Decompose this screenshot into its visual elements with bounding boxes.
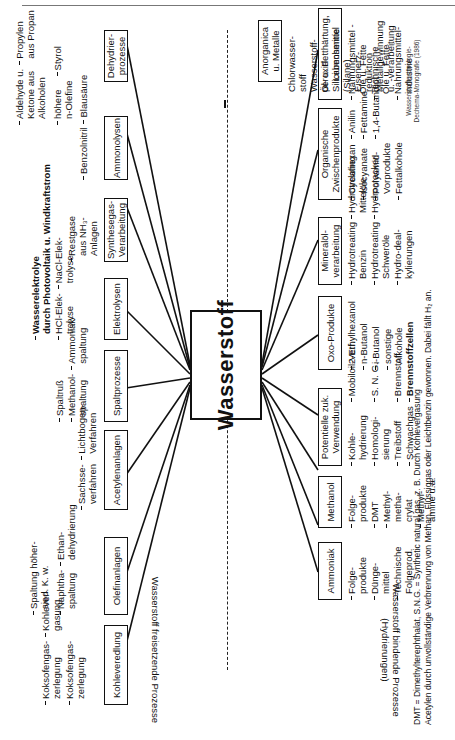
list-dehydrierprozesse: Aldehyde u. Ketone aus Alkoholen Propyle… xyxy=(14,10,48,125)
list-item: Methanol- spaltung xyxy=(66,374,88,422)
node-synthesegas-verarbeitung: Synthesegas- Verarbeitung xyxy=(104,198,128,262)
list-item: Restgase aus NH₃- Anlagen xyxy=(66,216,99,262)
footnote-line-2: Acetylen durch unvollständige Verbrennun… xyxy=(423,289,434,725)
node-mineraloelverarbeitung: Mineralöl- verarbeitung xyxy=(318,217,342,285)
list-item: Spaltung höher- sied. K. w. xyxy=(28,525,50,615)
list-dehydrierprozesse-2: höhere n-Olefine Styrol xyxy=(52,46,75,125)
items-kohleveredlung: Koksofengas- zerlegung Kohlever- gasung xyxy=(40,625,63,705)
list-item: Naphtha- spaltung xyxy=(55,570,77,615)
label-releasing-processes: Wasserstoff freisetzende Prozesse xyxy=(150,570,161,730)
center-label: Wasserstoff xyxy=(213,300,239,431)
list-item: Chlorwasser- stoff xyxy=(286,21,308,92)
list-item: Metallgewinnung u. -verarbeitung xyxy=(374,21,396,92)
separator-right xyxy=(227,30,228,312)
list-item: n-Butanol xyxy=(358,301,369,370)
list-item: Isocyanate xyxy=(358,142,369,200)
list-oxo-produkte: 2-Ethylhexanol n-Butanol i-Butanol sonst… xyxy=(346,301,405,370)
list-item: Cyclohexan xyxy=(346,142,357,200)
group-kohleveredlung: Koksofengas- zerlegung xyxy=(64,641,87,705)
list-item: HCl-Elek- trolyse xyxy=(53,293,75,340)
node-methanol: Methanol xyxy=(318,476,342,528)
list-item: Fettalkohole xyxy=(393,142,404,200)
list-item: Polyamid- Vorprodukte xyxy=(370,142,392,200)
list-anorganica-metalle: Chlorwasser- stoff Wasserstoff- peroxid … xyxy=(282,8,392,96)
list-item: Wasserstoff- peroxid xyxy=(308,21,330,92)
node-dehydrierprozesse: Dehydrier- prozesse xyxy=(104,30,128,82)
list-item: DMT xyxy=(369,478,380,528)
list-item: Benzolnitril xyxy=(78,128,89,180)
node-oxo-produkte: Oxo-Produkte xyxy=(318,296,342,370)
list-item: Kohle- hydrierung xyxy=(346,406,368,466)
node-organische-zwischenprodukte: Organische Zwischenprodukte xyxy=(318,108,342,200)
list-item: höhere n-Olefine xyxy=(52,80,74,125)
list-item: Eisenerz- reduktion xyxy=(352,21,374,92)
node-ammonolysen: Ammonolysen xyxy=(104,116,128,180)
list-item: Koksofengas- zerlegung xyxy=(40,641,62,705)
list-item: i-Butanol xyxy=(370,301,381,370)
list-item: Aldehyde u. Ketone aus Alkoholen xyxy=(14,69,47,125)
citation: Wasserstofftechnologie- Dechema-Monograf… xyxy=(405,22,435,142)
list-item: Hydro-deal- kylierungen xyxy=(392,222,414,285)
list-item: Blausäure xyxy=(78,75,89,124)
marker-glyph xyxy=(224,100,226,108)
hydrogen-process-diagram: Wasserstoff Kohleveredlung Koksofengas- … xyxy=(0,0,455,740)
list-item: Hydrotreating Schweröle xyxy=(369,222,391,285)
node-spaltprozesse: Spaltprozesse xyxy=(104,350,128,422)
node-elektrolysen: Elektrolysen xyxy=(104,278,128,340)
node-kohleveredlung: Kohleveredlung xyxy=(104,625,128,705)
node-olefinanlagen: Olefinanlagen xyxy=(104,537,128,615)
list-item: Folge- produkte xyxy=(346,478,368,528)
list-item: Propylen aus Propan xyxy=(14,10,47,65)
list-item: Koksofengas- zerlegung xyxy=(64,641,86,705)
list-item: Hydrotreating Benzin xyxy=(346,222,368,285)
list-item: Methyl- metha- crylat xyxy=(381,478,414,528)
items-olefinanlagen: Spaltung höher- sied. K. w. Naphtha- spa… xyxy=(28,525,51,615)
node-ammoniak: Ammoniak xyxy=(318,542,342,600)
separator-left xyxy=(227,400,228,670)
center-node-wasserstoff: Wasserstoff xyxy=(190,310,262,420)
list-item: Ethan- dehydrierung xyxy=(55,504,77,565)
node-potentielle-verwendung: Potentielle zuk. Verwendung xyxy=(318,388,342,466)
list-item: Treibstoff xyxy=(392,406,403,466)
list-item: sonstige Alkohole xyxy=(382,301,404,370)
list-item: 2-Ethylhexanol xyxy=(346,301,357,370)
list-item: Folge- produkte xyxy=(346,546,368,600)
list-item: Wasserelektrolye durch Photovoltaik u. W… xyxy=(30,164,52,340)
node-acetylenanlagen: Acetylenanlagen xyxy=(104,430,128,510)
footnotes: DMT = Dimethylterephthalat, S.N.G. = Syn… xyxy=(412,230,448,730)
list-item: Sachsse- verfahren xyxy=(76,464,98,510)
list-olefinanlagen: Naphtha- spaltung Ethan- dehydrierung xyxy=(55,504,78,615)
list-synthesegas: Restgase aus NH₃- Anlagen xyxy=(66,216,100,262)
footnote-line-1: DMT = Dimethylterephthalat, S.N.G. = Syn… xyxy=(412,289,423,725)
node-anorganica-metalle-screen: Anorganica u. Metalle xyxy=(258,20,282,82)
list-item: Styrol xyxy=(52,46,74,76)
list-ammonolysen: Benzolnitril Blausäure xyxy=(78,75,90,180)
list-item: Siliciumchemie (Silane) xyxy=(330,21,352,92)
label-binding-processes: Wasserstoff bindende Prozesse (Hydrierun… xyxy=(380,570,402,730)
list-item: Homologi- sierung xyxy=(369,406,391,466)
